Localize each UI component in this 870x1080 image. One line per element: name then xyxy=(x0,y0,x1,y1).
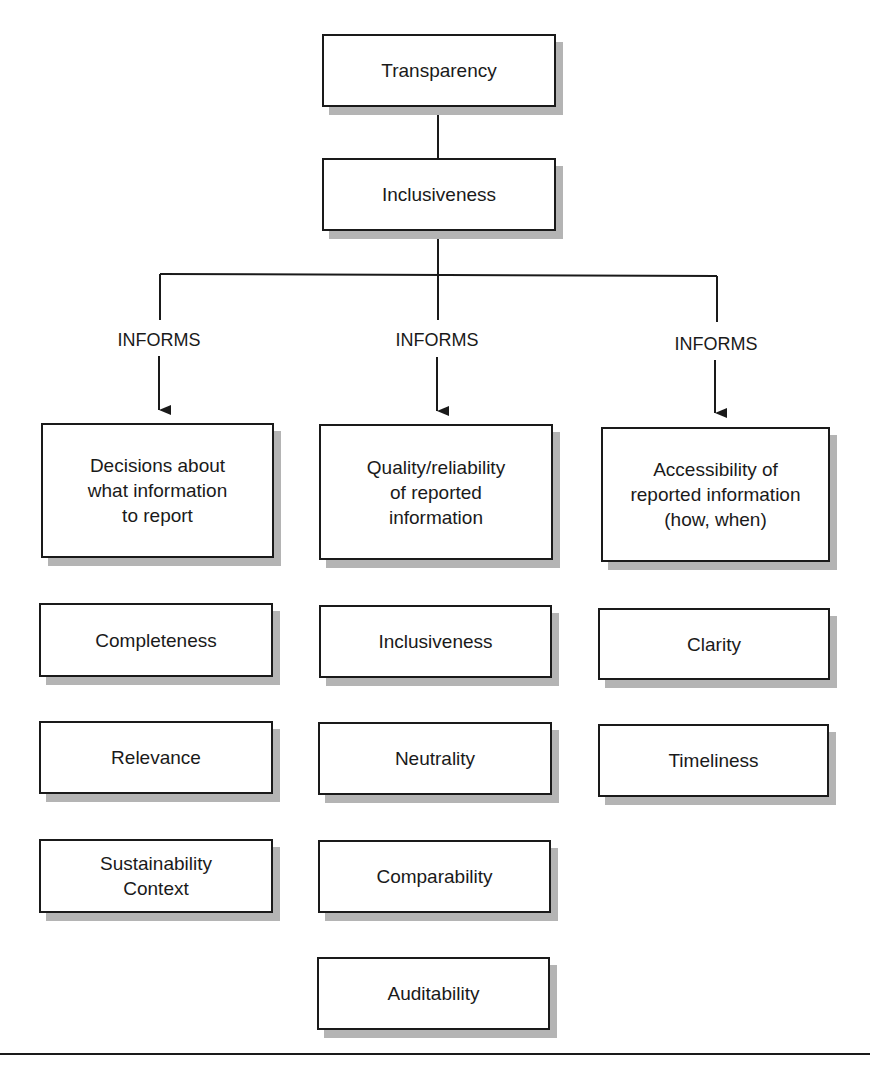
transparency-box: Transparency xyxy=(322,34,556,107)
clarity-label: Clarity xyxy=(687,632,741,657)
bottom-rule xyxy=(0,1053,870,1055)
informs-label-left: INFORMS xyxy=(118,330,201,351)
comparability-label: Comparability xyxy=(376,864,492,889)
decisions-header-box: Decisions about what information to repo… xyxy=(41,423,274,558)
informs-label-right: INFORMS xyxy=(675,334,758,355)
inclusiveness-label: Inclusiveness xyxy=(378,629,492,654)
decisions-header-label: Decisions about what information to repo… xyxy=(88,453,227,528)
completeness-box: Completeness xyxy=(39,603,273,677)
sustainability-context-box: Sustainability Context xyxy=(39,839,273,913)
relevance-label: Relevance xyxy=(111,745,201,770)
quality-header-box: Quality/reliability of reported informat… xyxy=(319,424,553,560)
sustainability-context-label: Sustainability Context xyxy=(100,851,212,901)
auditability-label: Auditability xyxy=(388,981,480,1006)
informs-label-middle: INFORMS xyxy=(396,330,479,351)
timeliness-box: Timeliness xyxy=(598,724,829,797)
inclusiveness-top-label: Inclusiveness xyxy=(382,182,496,207)
transparency-label: Transparency xyxy=(381,58,496,83)
comparability-box: Comparability xyxy=(318,840,551,913)
auditability-box: Auditability xyxy=(317,957,550,1030)
completeness-label: Completeness xyxy=(95,628,216,653)
clarity-box: Clarity xyxy=(598,608,830,680)
accessibility-header-box: Accessibility of reported information (h… xyxy=(601,427,830,562)
relevance-box: Relevance xyxy=(39,721,273,794)
inclusiveness-box: Inclusiveness xyxy=(319,605,552,678)
neutrality-box: Neutrality xyxy=(318,722,552,795)
quality-header-label: Quality/reliability of reported informat… xyxy=(367,455,505,530)
inclusiveness-top-box: Inclusiveness xyxy=(322,158,556,231)
neutrality-label: Neutrality xyxy=(395,746,475,771)
accessibility-header-label: Accessibility of reported information (h… xyxy=(630,457,800,532)
timeliness-label: Timeliness xyxy=(668,748,758,773)
